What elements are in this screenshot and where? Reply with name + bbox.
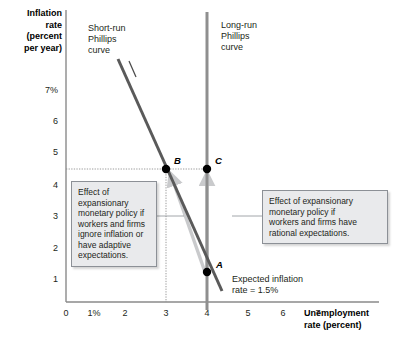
expected-inflation-note: Expected inflation rate = 1.5% — [232, 274, 347, 296]
x-tick-5: 5 — [236, 308, 260, 318]
y-tick-2: 2 — [26, 243, 58, 253]
point-c-label: C — [215, 155, 222, 166]
y-tick-6: 6 — [26, 116, 58, 126]
y-tick-4: 4 — [26, 180, 58, 190]
x-tick-4: 4 — [195, 308, 219, 318]
x-tick-6: 6 — [271, 308, 295, 318]
short-run-label-pointer — [129, 61, 136, 77]
x-tick-7: 7 — [306, 308, 330, 318]
x-tick-0: 0 — [54, 308, 78, 318]
x-tick-1: 1% — [82, 308, 106, 318]
y-axis-title: Inflation rate (percent per year) — [0, 8, 62, 54]
long-run-curve-label: Long-run Phillips curve — [221, 20, 257, 53]
data-point-a — [203, 268, 211, 276]
point-a-label: A — [216, 259, 223, 270]
data-point-c — [203, 165, 211, 173]
rational-expectations-callout: Effect of expansionary monetary policy i… — [262, 190, 388, 244]
x-tick-3: 3 — [154, 308, 178, 318]
y-tick-3: 3 — [26, 211, 58, 221]
y-tick-1: 1 — [26, 274, 58, 284]
x-tick-2: 2 — [113, 308, 137, 318]
point-b-label: B — [174, 155, 181, 166]
short-run-curve-label: Short-run Phillips curve — [88, 23, 126, 56]
data-point-b — [162, 165, 170, 173]
adaptive-expectations-callout: Effect of expansionary monetary policy i… — [71, 181, 157, 267]
y-tick-5: 5 — [26, 147, 58, 157]
phillips-curve-figure: Inflation rate (percent per year) Unempl… — [0, 0, 411, 354]
y-tick-7: 7% — [26, 85, 58, 95]
